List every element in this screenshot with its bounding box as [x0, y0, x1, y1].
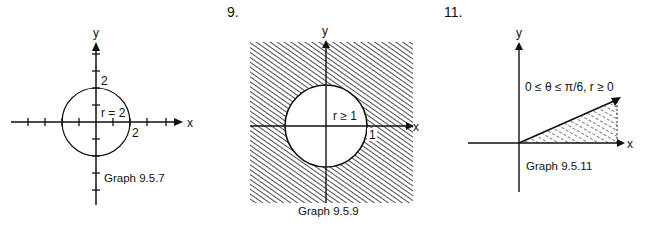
x-axis-arrow-icon: [617, 139, 625, 147]
x-tick-label: 1: [369, 128, 376, 142]
y-axis-label: y: [93, 26, 99, 40]
x-axis-label: x: [413, 120, 419, 134]
region-annotation: r ≥ 1: [333, 109, 357, 123]
x-axis-label: x: [627, 137, 633, 151]
x-axis-label: x: [187, 116, 193, 130]
graph-9-5-7: y x 2 2 r = 2 Graph 9.5.7: [11, 26, 193, 205]
y-axis-label: y: [322, 24, 328, 38]
y-tick-label: 2: [101, 74, 108, 88]
x-axis-arrow-icon: [174, 118, 183, 126]
y-axis-label: y: [516, 26, 522, 40]
x-tick-label: 2: [132, 126, 139, 140]
y-axis-arrow-icon: [92, 42, 100, 51]
graph-caption: Graph 9.5.9: [298, 205, 359, 217]
y-axis-arrow-icon: [515, 42, 523, 50]
problem-number: 11.: [444, 4, 462, 20]
problem-number: 9.: [227, 4, 239, 20]
graph-caption: Graph 9.5.7: [104, 172, 165, 184]
region-annotation: 0 ≤ θ ≤ π/6, r ≥ 0: [525, 80, 614, 94]
circle-annotation: r = 2: [101, 106, 126, 120]
graph-9-5-9: 9. y x r ≥ 1 1 Graph 9.5.9: [227, 4, 419, 217]
figure-canvas: y x 2 2 r = 2 Graph 9.5.7 9. y x r ≥ 1 1…: [0, 0, 646, 232]
graph-9-5-11: 11. y x 0 ≤ θ ≤ π/6, r ≥ 0 Graph 9.5.11: [444, 4, 633, 192]
graph-caption: Graph 9.5.11: [526, 160, 592, 172]
